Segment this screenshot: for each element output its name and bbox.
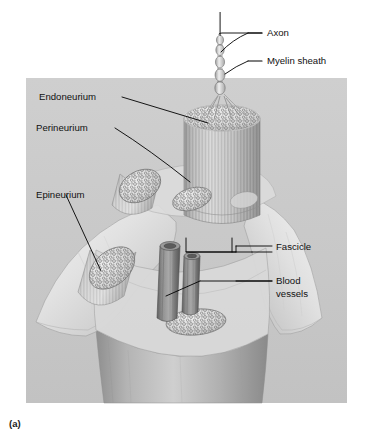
label-endoneurium: Endoneurium (39, 91, 96, 102)
label-axon: Axon (267, 27, 289, 38)
label-myelin-sheath: Myelin sheath (267, 55, 326, 66)
central-fascicle-cylinder (182, 105, 264, 238)
label-blood-vessels-line1: Blood (276, 275, 301, 286)
label-blood-vessels-line2: vessels (276, 288, 308, 299)
label-epineurium: Epineurium (36, 189, 85, 200)
axon-fiber (219, 12, 220, 36)
label-perineurium: Perineurium (36, 122, 88, 133)
nerve-diagram-svg: Axon Myelin sheath Endoneurium Perineuri… (0, 0, 369, 444)
blood-vessel-small (182, 252, 200, 316)
label-fascicle: Fascicle (276, 241, 311, 252)
nerve-anatomy-figure: Axon Myelin sheath Endoneurium Perineuri… (0, 0, 369, 444)
figure-caption: (a) (9, 418, 21, 429)
blood-vessel-large (157, 242, 180, 322)
